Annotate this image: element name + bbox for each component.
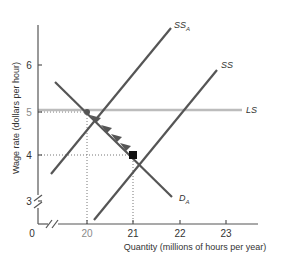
y-axis-title: Wage rate (dollars per hour) [11,62,21,174]
ls-label: LS [246,105,257,115]
adjustment-arrows [90,115,131,151]
x-tick-label: 21 [127,228,139,239]
ss-a-curve [51,28,171,174]
y-tick-label: 6 [26,60,32,71]
d-a-label: DA [179,193,190,205]
labor-market-chart: 6 5 4 3 0 20 21 22 23 Quantity (millions… [0,0,288,261]
y-break-mark [34,195,42,201]
y-tick-label: 3 [26,196,32,207]
y-break-mark [34,202,42,208]
axes [34,25,258,228]
initial-equilibrium-point [129,151,137,159]
origin-label: 0 [29,228,35,239]
new-equilibrium-point [84,109,90,115]
ss-a-label: SSA [174,20,190,32]
ss-curve [94,70,217,220]
x-tick-label: 20 [81,228,93,239]
y-tick-label: 5 [26,107,32,118]
ss-label: SS [221,60,233,70]
guide-lines [38,112,133,224]
x-break-mark [52,220,58,228]
x-tick-label: 23 [220,228,232,239]
x-axis-title: Quantity (millions of hours per year) [124,242,267,252]
y-tick-label: 4 [26,150,32,161]
x-tick-label: 22 [174,228,186,239]
